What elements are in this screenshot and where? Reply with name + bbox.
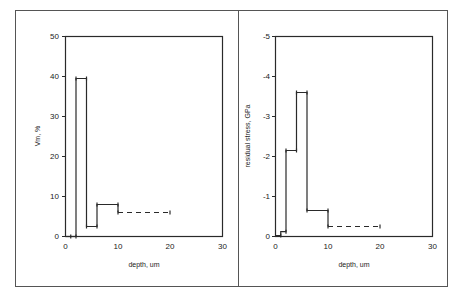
right-plot-frame bbox=[276, 37, 433, 237]
right-series-dashed bbox=[328, 225, 380, 229]
right-ytick-2: -2 bbox=[263, 152, 271, 161]
left-ytick-40: 40 bbox=[50, 72, 59, 81]
right-xtick-20: 20 bbox=[376, 242, 385, 251]
left-xtick-10: 10 bbox=[114, 242, 123, 251]
right-xtick-10: 10 bbox=[324, 242, 333, 251]
right-xtick-0: 0 bbox=[273, 242, 278, 251]
right-y-axis: 0 -1 -2 -3 -4 -5 residual stress, GPa bbox=[244, 32, 276, 241]
left-xlabel: depth, um bbox=[128, 261, 159, 269]
left-ytick-20: 20 bbox=[50, 152, 59, 161]
right-ytick-0: 0 bbox=[266, 232, 271, 241]
right-chart: 0 -1 -2 -3 -4 -5 residual stress, GPa 0 … bbox=[244, 32, 437, 269]
left-ytick-0: 0 bbox=[55, 232, 60, 241]
left-xtick-30: 30 bbox=[218, 242, 227, 251]
left-ytick-50: 50 bbox=[50, 32, 59, 41]
right-ylabel: residual stress, GPa bbox=[244, 104, 251, 167]
right-ytick-1: -1 bbox=[263, 192, 271, 201]
left-xtick-20: 20 bbox=[166, 242, 175, 251]
left-series-dashed bbox=[118, 211, 170, 215]
left-ytick-10: 10 bbox=[50, 192, 59, 201]
right-series-solid bbox=[276, 91, 329, 238]
left-series-solid bbox=[66, 77, 119, 239]
figure: 0 10 20 30 40 50 Vm, % 0 10 20 30 depth,… bbox=[0, 0, 459, 299]
left-y-axis: 0 10 20 30 40 50 Vm, % bbox=[34, 32, 66, 241]
left-ytick-30: 30 bbox=[50, 112, 59, 121]
left-xtick-0: 0 bbox=[63, 242, 68, 251]
left-plot-frame bbox=[66, 37, 223, 237]
right-ytick-3: -3 bbox=[263, 112, 271, 121]
left-chart: 0 10 20 30 40 50 Vm, % 0 10 20 30 depth,… bbox=[34, 32, 227, 269]
right-xtick-30: 30 bbox=[428, 242, 437, 251]
left-ylabel: Vm, % bbox=[34, 126, 41, 147]
right-ytick-4: -4 bbox=[263, 72, 271, 81]
right-x-axis: 0 10 20 30 depth, um bbox=[273, 242, 437, 269]
right-xlabel: depth, um bbox=[338, 261, 369, 269]
left-x-axis: 0 10 20 30 depth, um bbox=[63, 242, 227, 269]
right-ytick-5: -5 bbox=[263, 32, 271, 41]
